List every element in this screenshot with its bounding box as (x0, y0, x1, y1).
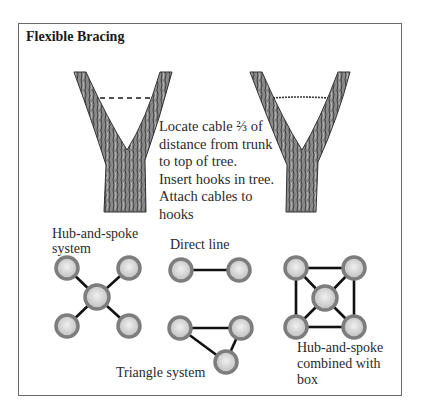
installed-cable (273, 97, 328, 98)
hub-spoke-box-label: Hub-and-spoke combined with box (297, 340, 383, 388)
hub-spoke-label: Hub-and-spoke system (52, 226, 138, 256)
direct-line-diagram (170, 259, 250, 281)
anchor-node (230, 317, 252, 339)
anchor-node (56, 315, 78, 337)
label-line: Hub-and-spoke (297, 340, 383, 356)
anchor-node (285, 316, 307, 338)
hub-spoke-box-diagram (285, 257, 365, 338)
anchor-node (118, 315, 140, 337)
anchor-node (56, 257, 78, 279)
instruction-line: hooks (159, 206, 274, 224)
anchor-node (228, 259, 250, 281)
label-line: box (297, 372, 383, 388)
tree-before-cabling (74, 72, 172, 212)
cabling-instructions: Locate cable ⅔ of distance from trunk to… (159, 118, 274, 224)
instruction-line: Locate cable ⅔ of (159, 118, 274, 136)
label-line: Hub-and-spoke (52, 226, 138, 241)
anchor-node (343, 316, 365, 338)
anchor-node (343, 257, 365, 279)
anchor-node (118, 257, 140, 279)
anchor-node (170, 259, 192, 281)
instruction-line: Insert hooks in tree. (159, 171, 274, 189)
triangle-system-label: Triangle system (116, 365, 205, 380)
label-line: combined with (297, 356, 383, 372)
label-line: system (52, 241, 138, 256)
anchor-node (215, 351, 237, 373)
anchor-node (169, 317, 191, 339)
anchor-node (285, 257, 307, 279)
direct-line-label: Direct line (170, 237, 229, 252)
hub-node (313, 286, 337, 310)
instruction-line: Attach cables to (159, 188, 274, 206)
instruction-line: distance from trunk (159, 136, 274, 154)
instruction-line: to top of tree. (159, 153, 274, 171)
hub-node (85, 285, 109, 309)
